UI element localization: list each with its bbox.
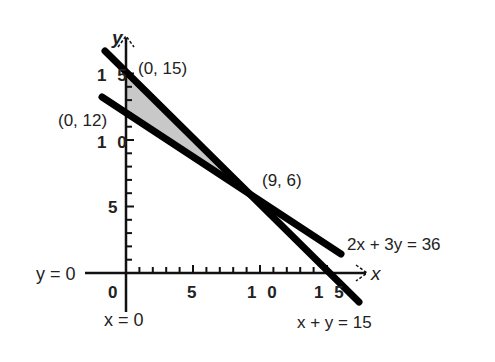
x-axis-label: x xyxy=(370,263,382,284)
origin-label: 0 xyxy=(108,283,120,302)
point-label-0-12: (0, 12) xyxy=(58,111,107,130)
x-tick-label-15: 1 5 xyxy=(314,283,347,302)
point-label-0-15: (0, 15) xyxy=(138,59,187,78)
line-x-y-15 xyxy=(105,51,359,302)
y-axis-label: y xyxy=(111,27,124,48)
y-tick-label-15: 1 5 xyxy=(97,66,130,85)
y-tick-label-5: 5 xyxy=(108,198,120,217)
diagram-canvas: y x y = 0 x = 0 0 5 1 0 1 5 5 1 0 1 5 (0… xyxy=(0,0,495,362)
line-2x-3y-36 xyxy=(102,97,341,254)
x-tick-label-5: 5 xyxy=(187,283,199,302)
y-tick-label-10: 1 0 xyxy=(97,133,130,152)
y-axis-caption: x = 0 xyxy=(104,310,144,330)
x-tick-label-10: 1 0 xyxy=(247,283,280,302)
point-label-9-6: (9, 6) xyxy=(262,171,302,190)
x-axis-caption: y = 0 xyxy=(36,264,76,284)
equation-label-x-y-15: x + y = 15 xyxy=(297,313,372,332)
equation-label-2x-3y-36: 2x + 3y = 36 xyxy=(347,235,441,254)
